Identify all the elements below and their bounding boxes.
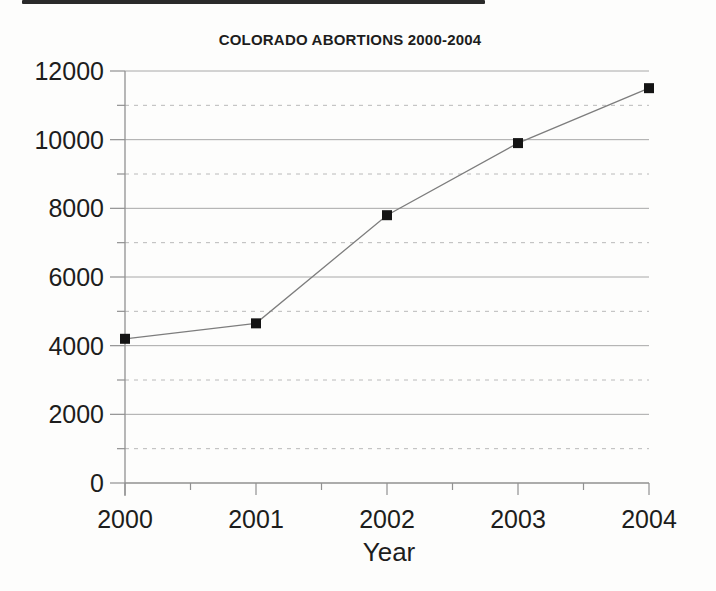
y-tick-label: 2000 [48, 400, 104, 428]
y-tick-label: 4000 [48, 332, 104, 360]
x-axis-title: Year [363, 537, 416, 568]
data-point-marker [120, 334, 130, 344]
x-tick-label: 2002 [359, 505, 415, 533]
x-tick-label: 2000 [97, 505, 153, 533]
line-chart-plot-area: 0200040006000800010000120002000200120022… [0, 0, 716, 591]
scanned-page: COLORADO ABORTIONS 2000-2004 02000400060… [0, 0, 716, 591]
y-tick-label: 6000 [48, 263, 104, 291]
data-point-marker [382, 210, 392, 220]
y-tick-label: 8000 [48, 194, 104, 222]
data-point-marker [644, 83, 654, 93]
x-tick-label: 2004 [621, 505, 677, 533]
y-tick-label: 0 [90, 469, 104, 497]
y-tick-label: 10000 [34, 126, 104, 154]
x-tick-label: 2001 [228, 505, 284, 533]
x-tick-label: 2003 [490, 505, 546, 533]
y-tick-label: 12000 [34, 57, 104, 85]
data-point-marker [251, 318, 261, 328]
data-point-marker [513, 138, 523, 148]
